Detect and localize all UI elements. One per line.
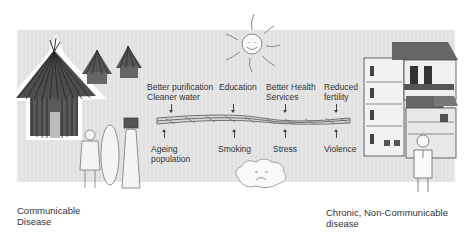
arrow-up-icon	[336, 130, 337, 138]
arrow-down-icon	[285, 104, 286, 112]
factor-smoking: Smoking	[218, 144, 251, 154]
factor-ageing-population: Ageing population	[151, 144, 190, 164]
arrow-up-icon	[164, 130, 165, 138]
villagers-icon	[80, 118, 140, 188]
sad-cloud-icon	[236, 159, 286, 188]
arrow-up-icon	[234, 130, 235, 138]
factor-reduced-fertility: Reduced fertility	[324, 82, 358, 102]
rope-icon	[157, 115, 350, 125]
arrow-down-icon	[336, 104, 337, 112]
arrow-up-icon	[285, 130, 286, 138]
caption-communicable-disease: Communicable Disease	[17, 205, 80, 227]
urban-houses-icon	[364, 42, 458, 158]
factor-purification-water: Better purification Cleaner water	[147, 82, 213, 102]
illustration-canvas	[0, 0, 471, 233]
factor-violence: Violence	[324, 144, 356, 154]
smiling-sun-icon	[226, 14, 280, 72]
arrow-down-icon	[233, 104, 234, 112]
factor-health-services: Better Health Services	[266, 82, 316, 102]
factor-education: Education	[219, 82, 257, 92]
thatched-hut-icon	[14, 38, 100, 138]
factor-stress: Stress	[273, 144, 297, 154]
arrow-down-icon	[171, 104, 172, 112]
small-hut-icon	[82, 46, 142, 84]
caption-chronic-disease: Chronic, Non-Communicable disease	[326, 207, 448, 229]
